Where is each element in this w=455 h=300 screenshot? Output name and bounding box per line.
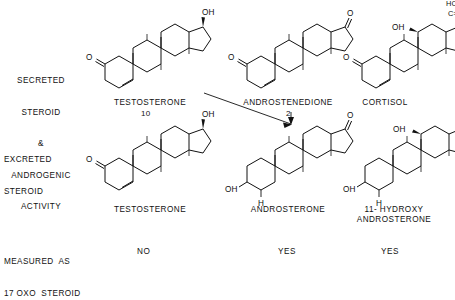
atom-label-o3: O [228,53,235,62]
atom-label-co20: C=O [448,9,455,18]
molecule-testosterone-excreted: O OH [95,110,215,196]
molecule-name-11-hydroxyandrosterone-excreted: 11- HYDROXY ANDROSTERONE [344,205,444,225]
molecule-name-androsterone-excreted: ANDROSTERONE [233,205,343,215]
measured-answer-testosterone: NO [137,247,150,256]
molecule-name-testosterone-excreted: TESTOSTERONE [103,205,197,215]
molecule-name-testosterone-secreted: TESTOSTERONE [103,98,197,108]
atom-label-o17: O [347,111,354,120]
row-label-excreted-line1: EXCRETED [4,155,82,166]
atom-label-hcoh21: HCOH [446,0,455,8]
atom-label-o3: O [86,53,93,62]
atom-label-o3: O [343,53,350,62]
measured-answer-11-hydroxyandrosterone: YES [381,247,399,256]
molecule-11-hydroxyandrosterone-excreted: OH H OH O [355,110,455,196]
atom-label-o3: O [86,155,93,164]
row-label-excreted-line2: STEROID [4,187,82,198]
molecule-androsterone-excreted: OH H O [237,110,357,196]
row-label-excreted: EXCRETED STEROID [4,134,82,218]
molecule-name-androstenedione-secreted: ANDROSTENEDIONE [233,98,343,108]
molecule-androstenedione-secreted: O O [237,8,357,94]
row-label-secreted-line1: SECRETED [2,76,80,87]
atom-label-oh11: OH [392,23,405,32]
row-label-measured: MEASURED AS 17 OXO STEROID [4,236,90,300]
atom-label-oh3: OH [225,185,238,194]
measured-answer-androsterone: YES [278,247,296,256]
molecule-cortisol-secreted: O OH C=O HCOH OH [352,8,452,94]
row-label-measured-line2: 17 OXO STEROID [4,289,90,300]
row-label-secreted-line2: STEROID [2,108,80,119]
row-label-measured-line1: MEASURED AS [4,257,90,268]
molecule-testosterone-secreted: O OH [95,8,215,94]
atom-label-oh3: OH [343,185,356,194]
atom-label-oh11: OH [393,125,406,134]
atom-label-oh17: OH [202,8,215,17]
atom-label-oh17: OH [202,110,215,119]
molecule-name-cortisol-secreted: CORTISOL [349,98,421,108]
